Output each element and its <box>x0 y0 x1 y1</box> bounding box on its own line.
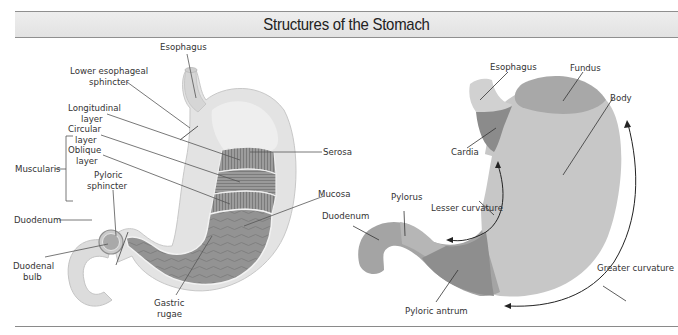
bottom-divider <box>15 326 678 327</box>
label-duodenal-bulb-1: Duodenal <box>13 261 54 272</box>
label-duodenal-bulb-2: bulb <box>23 272 42 283</box>
label-oblique-layer-1: Oblique <box>68 145 101 156</box>
label-longitudinal-layer-1: Longitudinal <box>68 103 121 114</box>
label-mucosa: Mucosa <box>318 189 351 200</box>
right-stomach-regions <box>353 72 636 309</box>
stomach-diagrams <box>0 0 678 335</box>
label-serosa: Serosa <box>323 147 352 158</box>
label-pyloric-sphincter-2: sphincter <box>87 181 127 192</box>
label-body: Body <box>610 93 632 104</box>
label-greater-curvature: Greater curvature <box>597 263 674 274</box>
label-pyloric-antrum: Pyloric antrum <box>405 306 468 317</box>
label-esophagus-left: Esophagus <box>160 42 207 53</box>
label-duodenum-right: Duodenum <box>322 211 369 222</box>
label-lower-esophageal-sphincter-1: Lower esophageal <box>70 66 148 77</box>
label-duodenum-left: Duodenum <box>14 215 61 226</box>
label-gastric-rugae-1: Gastric <box>154 298 184 309</box>
label-gastric-rugae-2: rugae <box>157 309 182 320</box>
label-pyloric-sphincter-1: Pyloric <box>94 170 123 181</box>
label-pylorus: Pylorus <box>391 192 422 203</box>
label-muscularis: Muscularis <box>15 164 61 175</box>
label-fundus: Fundus <box>570 63 601 74</box>
label-lower-esophageal-sphincter-2: sphincter <box>89 77 129 88</box>
label-oblique-layer-2: layer <box>76 156 98 167</box>
label-esophagus-right: Esophagus <box>490 62 537 73</box>
label-lesser-curvature: Lesser curvature <box>431 203 503 214</box>
label-cardia: Cardia <box>451 147 479 158</box>
label-circular-layer-1: Circular <box>68 124 101 135</box>
